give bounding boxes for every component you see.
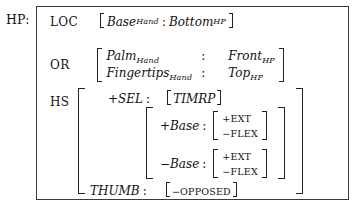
or-line-1-separator: :	[198, 66, 208, 80]
hs-left-bracket	[78, 88, 85, 194]
hs-base-1-right-bracket	[262, 149, 267, 178]
row-or: OR PalmHand : FrontHP FingertipsHand : T…	[50, 48, 284, 82]
or-right-bracket	[279, 48, 284, 82]
hs-base-1-features-group: +EXT −FLEX	[213, 149, 267, 178]
hs-thumb-left-bracket	[166, 182, 170, 197]
or-value-grid: PalmHand : FrontHP FingertipsHand : TopH…	[102, 48, 278, 82]
hs-sel-line: +SEL: TIMRP	[108, 88, 221, 107]
hs-sel-separator: :	[143, 92, 153, 106]
hs-base-1-label: −Base	[160, 157, 199, 171]
hs-sel-left-bracket	[167, 90, 171, 105]
attribute-or: OR	[50, 58, 69, 72]
hs-thumb-separator: :	[140, 184, 150, 198]
hs-base-0-feature-0: +EXT	[222, 111, 258, 126]
or-line-1-value: TopHP	[214, 66, 275, 82]
hs-base-group-left-bracket	[146, 107, 153, 179]
hs-right-bracket	[296, 88, 303, 194]
or-line-0-feature-subscript: Hand	[136, 56, 159, 65]
row-hs: HS	[50, 95, 69, 109]
hs-base-1-feature-0: +EXT	[222, 149, 258, 164]
hs-sel-label: +SEL	[108, 92, 143, 106]
avm-figure: HP: LOC BaseHand : BottomHP OR PalmHand …	[0, 0, 357, 207]
loc-value-subscript: HP	[213, 17, 226, 26]
row-loc: LOC BaseHand : BottomHP	[50, 14, 233, 29]
hs-base-0-feature-1: −FLEX	[222, 126, 258, 141]
hs-structure: +SEL: TIMRP +Base: +EXT −FLEX −Base:	[78, 88, 303, 196]
or-line-1-feature-subscript: Hand	[169, 74, 192, 83]
or-line-1-value-subscript: HP	[250, 74, 263, 83]
attribute-loc: LOC	[50, 15, 78, 29]
or-line-0-value-subscript: HP	[262, 56, 275, 65]
or-line-0-value: FrontHP	[214, 49, 275, 65]
loc-right-bracket	[229, 13, 233, 28]
or-line-0-separator: :	[198, 49, 208, 63]
hs-base-block-1: −Base: +EXT −FLEX	[160, 149, 267, 178]
hs-base-group-right-bracket	[278, 107, 285, 179]
hs-thumb-line: THUMB: −OPPOSED	[90, 180, 237, 199]
hs-base-0-features-group: +EXT −FLEX	[213, 111, 267, 140]
or-line-1-feature: FingertipsHand	[106, 66, 192, 82]
attribute-hs: HS	[50, 95, 69, 109]
hs-base-0-separator: :	[199, 119, 209, 133]
hs-base-1-features: +EXT −FLEX	[218, 149, 262, 178]
hs-base-1-separator: :	[199, 157, 209, 171]
hs-sel-right-bracket	[217, 90, 221, 105]
hs-base-1-feature-1: −FLEX	[222, 164, 258, 179]
hs-sel-value: TIMRP	[173, 92, 215, 106]
hs-base-0-features: +EXT −FLEX	[218, 111, 262, 140]
loc-separator: :	[159, 15, 169, 29]
hs-base-0-label: +Base	[160, 119, 199, 133]
loc-feature: Base	[107, 15, 136, 29]
root-label: HP:	[6, 12, 30, 27]
or-line-0-feature: PalmHand	[106, 49, 192, 65]
hs-thumb-label: THUMB	[90, 184, 140, 198]
loc-value: Bottom	[169, 15, 213, 29]
hs-base-0-right-bracket	[262, 111, 267, 140]
hs-thumb-value: −OPPOSED	[172, 186, 231, 197]
loc-feature-subscript: Hand	[136, 17, 159, 26]
hs-thumb-right-bracket	[233, 182, 237, 197]
hs-base-block-0: +Base: +EXT −FLEX	[160, 111, 267, 140]
loc-left-bracket	[100, 13, 104, 28]
or-bracketed-group: PalmHand : FrontHP FingertipsHand : TopH…	[97, 48, 283, 82]
